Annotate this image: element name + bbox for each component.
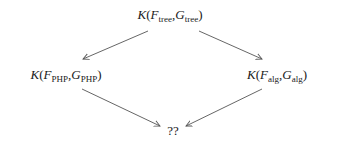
node-right: K(Falg,Galg) (247, 67, 307, 83)
node-top: K(Ftree,Gtree) (138, 7, 203, 23)
node-bottom-label: ?? (167, 123, 179, 138)
arrow-left-to-bottom (82, 89, 160, 126)
diagram-canvas: K(Ftree,Gtree) K(FPHP,GPHP) K(Falg,Galg)… (0, 0, 339, 142)
node-right-func: K (247, 67, 256, 82)
arrow-right-to-bottom (186, 89, 262, 126)
node-left: K(FPHP,GPHP) (31, 67, 102, 83)
arrow-top-to-left (83, 31, 148, 59)
node-bottom: ?? (167, 123, 179, 139)
node-left-func: K (31, 67, 40, 82)
arrow-top-to-right (199, 31, 262, 59)
node-top-func: K (138, 7, 147, 22)
